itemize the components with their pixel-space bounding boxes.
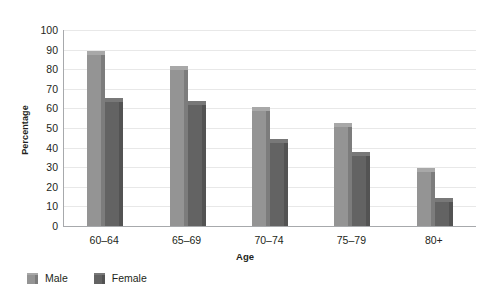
bar-male-6064 <box>87 51 105 226</box>
bar-top <box>334 123 352 127</box>
y-tick-label: 90 <box>18 44 58 55</box>
y-tick-label: 30 <box>18 162 58 173</box>
bar-male-6569 <box>170 66 188 226</box>
legend-label: Male <box>45 272 68 284</box>
legend-item-female[interactable]: Female <box>94 272 147 284</box>
bar-face <box>334 126 348 226</box>
x-tick-label: 70–74 <box>224 234 314 246</box>
x-tick-label: 65–69 <box>142 234 232 246</box>
bar-top <box>352 152 370 156</box>
sw-face <box>94 275 102 284</box>
bar-top <box>252 107 270 111</box>
x-tick-label: 75–79 <box>306 234 396 246</box>
bar-group <box>334 30 370 226</box>
x-tick-label: 80+ <box>389 234 479 246</box>
bar-top <box>417 168 435 172</box>
y-tick-label: 50 <box>18 123 58 134</box>
bar-side <box>119 101 123 226</box>
bar-face <box>417 171 431 226</box>
x-tick-label: 60–64 <box>59 234 149 246</box>
bar-face <box>87 54 101 226</box>
bar-face <box>435 201 449 226</box>
bar-top <box>270 139 288 143</box>
sw-face <box>27 275 35 284</box>
x-axis-title: Age <box>0 251 490 262</box>
bar-female-7074 <box>270 139 288 226</box>
bar-female-7579 <box>352 152 370 226</box>
bar-face <box>252 110 266 226</box>
bar-male-80 <box>417 168 435 226</box>
plot-area: 0102030405060708090100 <box>63 30 476 227</box>
bar-side <box>449 201 453 226</box>
bar-male-7579 <box>334 123 352 226</box>
bar-group <box>252 30 288 226</box>
bar-group <box>417 30 453 226</box>
bar-top <box>105 98 123 102</box>
bar-face <box>170 69 184 226</box>
sw-side <box>102 275 105 284</box>
bar-face <box>188 104 202 226</box>
bar-chart: Percentage 0102030405060708090100 60–646… <box>0 0 490 301</box>
legend-swatch-male-icon <box>27 273 38 284</box>
sw-side <box>35 275 38 284</box>
legend: MaleFemale <box>27 272 147 284</box>
bar-side <box>366 155 370 226</box>
bar-top <box>87 51 105 55</box>
bar-female-6064 <box>105 98 123 226</box>
legend-label: Female <box>112 272 147 284</box>
y-tick-label: 80 <box>18 64 58 75</box>
y-tick-label: 60 <box>18 103 58 114</box>
bar-side <box>284 142 288 226</box>
bar-male-7074 <box>252 107 270 226</box>
bar-face <box>105 101 119 226</box>
bar-group <box>170 30 206 226</box>
y-tick-label: 0 <box>18 221 58 232</box>
y-tick-label: 20 <box>18 182 58 193</box>
y-tick-label: 70 <box>18 84 58 95</box>
legend-swatch-female-icon <box>94 273 105 284</box>
y-tick-label: 10 <box>18 201 58 212</box>
bar-top <box>170 66 188 70</box>
bar-group <box>87 30 123 226</box>
bar-female-80 <box>435 198 453 226</box>
bar-face <box>270 142 284 226</box>
y-tick-label: 40 <box>18 142 58 153</box>
bar-side <box>202 104 206 226</box>
bar-face <box>352 155 366 226</box>
y-tick-label: 100 <box>18 25 58 36</box>
bars-layer <box>64 30 476 226</box>
bar-female-6569 <box>188 101 206 226</box>
legend-item-male[interactable]: Male <box>27 272 68 284</box>
bar-top <box>188 101 206 105</box>
bar-top <box>435 198 453 202</box>
